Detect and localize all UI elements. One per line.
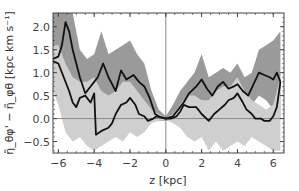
y-axis-label: η̃_θφ' − η̃_φθ [kpc km s⁻¹]	[3, 11, 16, 155]
x-tick-label: 0	[162, 157, 169, 170]
y-tick-label: 2.0	[33, 21, 51, 34]
x-tick-label: 2	[198, 157, 205, 170]
line-chart: −6−4−20246 −0.50.00.51.01.52.0 z [kpc] η…	[0, 0, 299, 191]
y-tick-label: −0.5	[23, 136, 50, 149]
x-axis-label: z [kpc]	[149, 174, 186, 187]
x-tick-label: 6	[270, 157, 277, 170]
y-tick-labels: −0.50.00.51.01.52.0	[23, 21, 50, 149]
x-tick-label: −2	[122, 157, 138, 170]
x-tick-label: −4	[86, 157, 102, 170]
y-tick-label: 0.5	[33, 90, 51, 103]
x-tick-labels: −6−4−20246	[50, 157, 276, 170]
y-tick-label: 1.0	[33, 67, 51, 80]
x-tick-label: 4	[234, 157, 241, 170]
uncertainty-bands	[53, 13, 280, 151]
y-tick-label: 1.5	[33, 44, 51, 57]
x-tick-label: −6	[50, 157, 66, 170]
y-tick-label: 0.0	[33, 113, 51, 126]
